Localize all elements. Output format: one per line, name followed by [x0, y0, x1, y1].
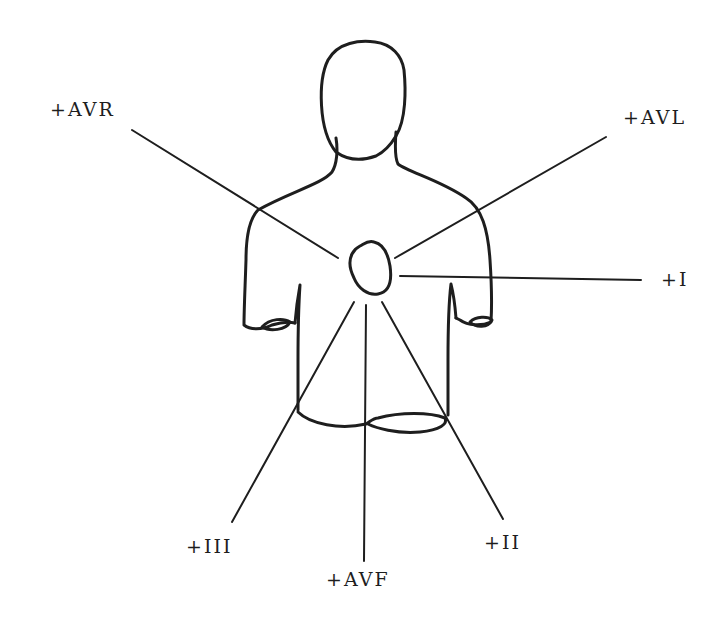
lead-label-iii: +III: [186, 537, 232, 556]
right-side-outline: [395, 132, 491, 325]
torso-outline: [244, 138, 337, 329]
lead-line-i: [400, 276, 641, 280]
ecg-lead-diagram: +AVR +AVL +I +II +AVF +III: [0, 0, 728, 618]
right-arm-inner: [448, 284, 456, 415]
lead-label-avr: +AVR: [50, 100, 115, 119]
lead-line-avf: [364, 305, 366, 561]
waist-outline: [298, 412, 446, 432]
lead-line-avl: [395, 137, 606, 258]
heart-outline: [350, 241, 391, 294]
lead-label-avl: +AVL: [623, 108, 686, 127]
lead-label-ii: +II: [484, 533, 521, 552]
lead-label-i: +I: [661, 270, 688, 289]
torso-illustration: [0, 0, 728, 618]
lead-line-iii: [232, 302, 354, 522]
left-arm-inner: [295, 285, 300, 410]
lead-line-avr: [132, 130, 338, 258]
lead-label-avf: +AVF: [326, 570, 390, 589]
head-outline: [321, 41, 405, 159]
lead-line-ii: [382, 302, 503, 519]
